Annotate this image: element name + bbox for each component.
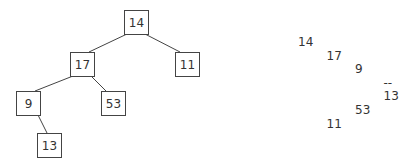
edge-17-53 bbox=[91, 76, 106, 91]
sideways-listing: 14179--135311 bbox=[298, 35, 399, 131]
node-label: 17 bbox=[75, 58, 90, 72]
listing-item-11: 11 bbox=[327, 117, 342, 131]
edge-17-9 bbox=[35, 76, 73, 91]
listing-item-14: 14 bbox=[298, 35, 313, 49]
edge-9-13 bbox=[38, 115, 47, 133]
node-label: 53 bbox=[106, 97, 121, 111]
edge-14-17 bbox=[89, 34, 127, 52]
node-label: 11 bbox=[180, 58, 195, 72]
tree-node-14: 14 bbox=[125, 11, 149, 35]
tree-diagram: 14171195313 14179--135311 bbox=[0, 0, 411, 166]
listing-item-17: 17 bbox=[327, 49, 342, 63]
listing-item-13: 13 bbox=[384, 89, 399, 103]
tree-node-13: 13 bbox=[38, 134, 62, 158]
tree-node-9: 9 bbox=[17, 92, 41, 116]
edge-14-11 bbox=[145, 34, 180, 52]
listing-item-53: 53 bbox=[355, 103, 370, 117]
tree-node-53: 53 bbox=[102, 92, 126, 116]
tree-node-17: 17 bbox=[71, 53, 95, 77]
listing-item-9: 9 bbox=[355, 62, 363, 76]
tree-node-11: 11 bbox=[176, 53, 200, 77]
nodes-layer: 14171195313 bbox=[17, 11, 200, 158]
edges-layer bbox=[35, 34, 180, 133]
node-label: 14 bbox=[129, 16, 144, 30]
node-label: 13 bbox=[42, 139, 57, 153]
node-label: 9 bbox=[25, 97, 33, 111]
listing-empty-marker: -- bbox=[384, 76, 393, 90]
